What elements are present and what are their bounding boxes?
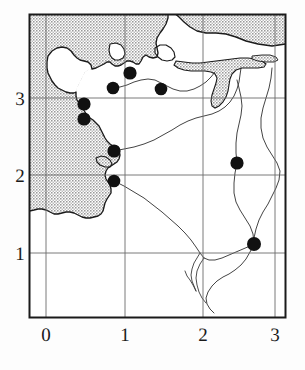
x-tick-label-2: 2 bbox=[198, 325, 208, 346]
data-point bbox=[123, 66, 136, 79]
x-tick-label-0: 0 bbox=[41, 325, 51, 346]
data-point bbox=[107, 82, 120, 95]
x-tick-label-1: 1 bbox=[120, 325, 130, 346]
data-point bbox=[77, 112, 90, 125]
data-point bbox=[230, 156, 243, 169]
data-point bbox=[108, 175, 121, 188]
y-tick-label-2: 2 bbox=[15, 166, 25, 187]
data-point bbox=[155, 83, 168, 96]
map-svg: 0 1 2 3 3 2 1 bbox=[0, 0, 305, 370]
data-point bbox=[77, 97, 90, 110]
data-point bbox=[247, 237, 261, 251]
y-tick-label-1: 1 bbox=[15, 244, 25, 265]
data-point bbox=[107, 144, 120, 157]
y-tick-label-3: 3 bbox=[15, 89, 25, 110]
x-tick-label-3: 3 bbox=[270, 325, 280, 346]
map-figure: 0 1 2 3 3 2 1 bbox=[0, 0, 305, 370]
